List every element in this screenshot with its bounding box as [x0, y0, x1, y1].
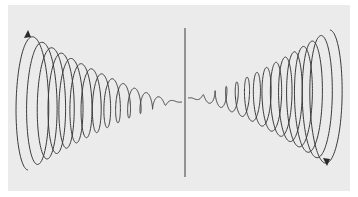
right-spiral	[188, 30, 342, 163]
left-spiral	[16, 37, 182, 170]
spiral-diagram	[0, 0, 358, 197]
left-arrowhead-icon	[24, 30, 31, 38]
